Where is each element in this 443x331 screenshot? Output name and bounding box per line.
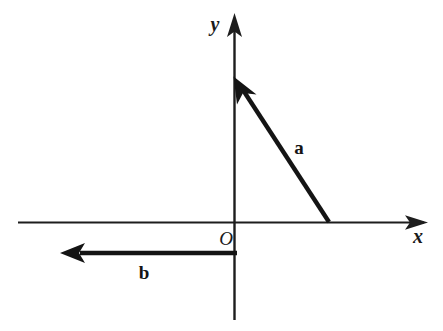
vector-a-arrowhead-icon	[234, 77, 257, 105]
y-axis-group	[227, 13, 242, 320]
vector-a-label: a	[294, 137, 304, 158]
vector-b-label: b	[139, 262, 150, 283]
vector-diagram-canvas: y x O a b	[0, 0, 443, 331]
vector-a-group	[234, 77, 330, 223]
vector-a-shaft	[243, 90, 329, 222]
vector-diagram-figure: y x O a b	[0, 0, 443, 331]
vector-b-group	[60, 243, 237, 263]
y-axis-label: y	[209, 13, 220, 36]
origin-label: O	[219, 228, 233, 249]
x-axis-label: x	[412, 225, 423, 247]
